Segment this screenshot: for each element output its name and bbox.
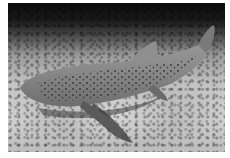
shark-photo: Grayscale photograph of a spotted leopar… [8,3,225,152]
dorsal-fin [128,41,157,63]
shark-illustration [8,3,225,152]
pectoral-fin [80,101,126,135]
